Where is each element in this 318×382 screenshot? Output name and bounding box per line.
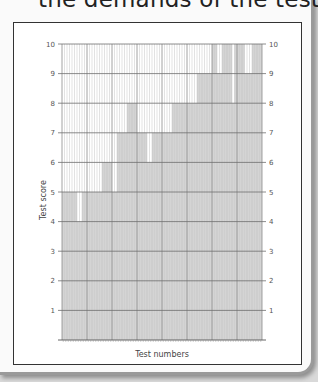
bar [220, 74, 223, 340]
bar [157, 133, 160, 340]
y-axis-title: Test score [39, 180, 48, 221]
bar [97, 192, 100, 340]
bar [75, 192, 78, 340]
y-tick-label-right: 5 [269, 189, 273, 197]
y-tick-label-left: 6 [51, 159, 56, 167]
y-tick-label-left: 9 [51, 70, 55, 78]
bar [165, 133, 168, 340]
y-tick-label-right: 8 [269, 100, 273, 108]
bar [170, 133, 173, 340]
y-tick-label-right: 7 [269, 129, 273, 137]
y-tick-label-right: 1 [269, 307, 273, 315]
bar [200, 74, 203, 340]
y-tick-label-right: 3 [269, 248, 273, 256]
bar [92, 192, 95, 340]
bar [65, 192, 68, 340]
bar [122, 133, 125, 340]
bar [167, 133, 170, 340]
bar [90, 192, 93, 340]
y-tick-label-left: 3 [51, 248, 55, 256]
y-tick-label-left: 10 [46, 41, 55, 49]
bar [140, 133, 143, 340]
bar [217, 74, 220, 340]
page: the demands of the tests. 11223344556677… [0, 0, 314, 375]
bar [67, 192, 70, 340]
y-tick-label-left: 5 [51, 189, 55, 197]
bar [142, 133, 145, 340]
bar [205, 74, 208, 340]
bar [202, 74, 205, 340]
bar [70, 192, 73, 340]
bar [100, 192, 103, 340]
bar-chart: 1122334455667788991010 Test numbers Test… [0, 0, 318, 382]
y-tick-label-right: 6 [269, 159, 274, 167]
bar [155, 133, 158, 340]
bar [120, 133, 123, 340]
bar [82, 192, 85, 340]
bar [245, 74, 248, 340]
y-tick-label-left: 2 [51, 277, 55, 285]
y-tick-label-left: 4 [51, 218, 56, 226]
bar [247, 74, 250, 340]
bar [197, 74, 200, 340]
bar [207, 74, 210, 340]
bar [117, 133, 120, 340]
bar [145, 133, 148, 340]
bar [125, 133, 128, 340]
bar [250, 74, 253, 340]
bar [72, 192, 75, 340]
y-tick-label-left: 1 [51, 307, 55, 315]
y-tick-label-left: 7 [51, 129, 55, 137]
y-tick-label-right: 9 [269, 70, 273, 78]
bar [152, 133, 155, 340]
y-tick-label-right: 4 [269, 218, 274, 226]
x-axis-title: Test numbers [134, 350, 189, 359]
y-tick-label-left: 8 [51, 100, 55, 108]
bar [115, 192, 118, 340]
bar [95, 192, 98, 340]
y-tick-label-right: 10 [269, 41, 278, 49]
y-tick-label-right: 2 [269, 277, 273, 285]
